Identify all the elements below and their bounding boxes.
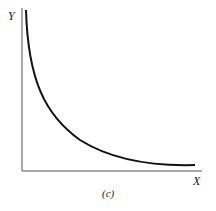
x-axis-label: X: [192, 174, 201, 188]
figure-caption: (c): [102, 187, 115, 200]
chart-canvas: Y X (c): [0, 0, 216, 211]
y-axis-label: Y: [8, 9, 16, 23]
decreasing-curve: [26, 10, 195, 165]
